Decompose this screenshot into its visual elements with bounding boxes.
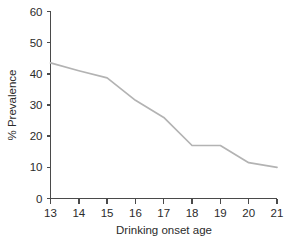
x-tick-label: 13 [44, 207, 57, 219]
x-tick-label: 18 [186, 207, 199, 219]
y-tick-label: 0 [36, 193, 42, 205]
y-tick-label: 30 [30, 99, 43, 111]
y-tick-label: 10 [30, 161, 43, 173]
x-tick-label: 21 [271, 207, 284, 219]
y-axis-title: % Prevalence [6, 70, 18, 141]
y-tick-label: 40 [30, 68, 43, 80]
x-tick-label: 14 [72, 207, 85, 219]
y-tick-label: 60 [30, 6, 43, 18]
x-tick-label: 16 [129, 207, 142, 219]
x-tick-label: 15 [101, 207, 114, 219]
x-tick-label: 20 [242, 207, 255, 219]
x-tick-label: 17 [157, 207, 170, 219]
chart-page: 0102030405060 % Prevalence 1314151617181… [0, 0, 289, 242]
x-tick-label: 19 [214, 207, 227, 219]
y-tick-label: 50 [30, 37, 43, 49]
x-axis-title: Drinking onset age [116, 224, 212, 236]
line-chart: 0102030405060 % Prevalence 1314151617181… [0, 0, 289, 242]
x-axis-tick-labels: 131415161718192021 [44, 207, 283, 219]
y-tick-label: 20 [30, 130, 43, 142]
